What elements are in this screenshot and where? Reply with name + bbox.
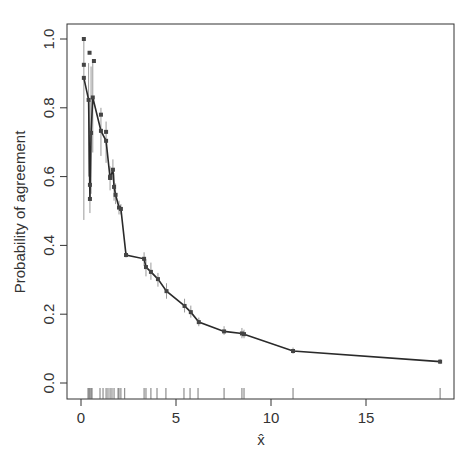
error-bars [84,39,440,364]
y-axis-label: Probability of agreement [11,130,28,293]
data-point [165,289,169,293]
y-tick-label: 0.2 [40,304,57,325]
data-point [149,270,153,274]
data-point [88,183,92,187]
y-axis: 0.00.20.40.60.81.0 [40,29,67,394]
data-point [108,175,112,179]
data-point [114,193,118,197]
data-point [87,98,91,102]
data-point [92,59,96,63]
data-points [82,37,442,364]
data-point [104,139,108,143]
x-tick-label: 5 [172,409,180,426]
data-point [438,360,442,364]
y-tick-label: 0.6 [40,166,57,187]
data-point [291,349,295,353]
data-point [197,320,201,324]
series-line [84,78,440,362]
x-axis-label: x̂ [257,431,265,448]
data-point [82,63,86,67]
y-tick-label: 1.0 [40,29,57,50]
data-point [82,76,86,80]
data-point [111,168,115,172]
data-point [88,197,92,201]
data-point [119,207,123,211]
data-point [189,310,193,314]
data-point [91,95,95,99]
data-point [242,332,246,336]
x-tick-label: 0 [77,409,85,426]
x-tick-label: 10 [263,409,280,426]
y-tick-label: 0.4 [40,235,57,256]
y-tick-label: 0.0 [40,373,57,394]
data-point [142,257,146,261]
data-point [104,130,108,134]
data-point [89,131,93,135]
y-tick-label: 0.8 [40,97,57,118]
data-point [144,265,148,269]
data-point [99,129,103,133]
data-point [112,185,116,189]
data-point [183,304,187,308]
data-point [82,37,86,41]
x-tick-label: 15 [358,409,375,426]
chart: 0.00.20.40.60.81.0 051015 Probability of… [0,0,467,458]
data-point [124,253,128,257]
plot-frame [67,24,454,399]
data-point [99,113,103,117]
data-point [88,51,92,55]
data-point [222,329,226,333]
x-axis: 051015 [77,399,375,426]
data-point [156,277,160,281]
rug-ticks [88,388,440,399]
